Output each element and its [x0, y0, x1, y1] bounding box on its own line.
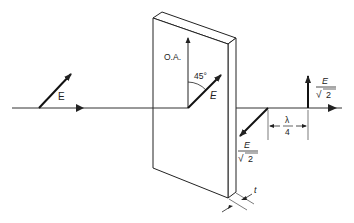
output-direction-arrow-icon — [328, 104, 337, 112]
quarter-label: 4 — [285, 127, 290, 137]
field-in-plate-label: E — [210, 90, 217, 101]
component-numerator: E — [244, 140, 251, 150]
beam-direction-arrow-icon — [76, 104, 84, 112]
quarter-wave-dimension: λ 4 — [268, 110, 308, 140]
angle-label: 45° — [194, 71, 207, 81]
waveplate — [153, 12, 236, 198]
sqrt-symbol-2: √ — [316, 89, 322, 100]
thickness-label: t — [254, 185, 257, 195]
horizontal-component-vector — [240, 108, 268, 136]
component-denominator: 2 — [248, 154, 253, 164]
incident-field-vector: E — [39, 74, 71, 108]
sqrt-symbol: √ — [238, 153, 244, 164]
output-beam — [236, 104, 342, 112]
horizontal-component-label: E √ 2 — [238, 140, 258, 164]
component-numerator-2: E — [322, 76, 329, 86]
quarter-wave-plate-diagram: E O.A. 45° E E √ 2 — [0, 0, 354, 223]
incident-field-label: E — [58, 91, 65, 102]
optic-axis-label: O.A. — [164, 52, 181, 62]
component-denominator-2: 2 — [326, 90, 331, 100]
lambda-label: λ — [285, 115, 290, 125]
vertical-component-label: E √ 2 — [316, 76, 336, 100]
incident-beam — [12, 104, 153, 112]
